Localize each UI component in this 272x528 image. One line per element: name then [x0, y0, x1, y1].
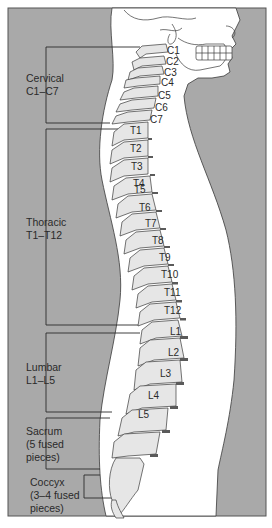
region-cervical-range: C1–C7	[26, 85, 59, 97]
region-lumbar-name: Lumbar	[26, 361, 62, 373]
spine-diagram: C1 C2 C3 C4 C5 C6 C7 T1 T2 T3 T4 T5 T6 T…	[0, 0, 272, 528]
region-thoracic-range: T1–T12	[26, 229, 62, 241]
label-t8: T8	[152, 235, 164, 246]
label-t7: T7	[145, 218, 157, 229]
label-l4: L4	[148, 390, 160, 401]
label-c7: C7	[150, 114, 163, 125]
region-coccyx-desc-1: (3–4 fused	[30, 489, 80, 501]
label-t1: T1	[130, 125, 142, 136]
label-t5: T5	[134, 184, 146, 195]
region-sacrum-desc-1: (5 fused	[26, 438, 64, 450]
label-t11: T11	[164, 287, 181, 298]
label-l1: L1	[170, 326, 182, 337]
label-t3: T3	[131, 161, 143, 172]
region-sacrum-name: Sacrum	[26, 425, 62, 437]
region-coccyx-name: Coccyx	[30, 476, 65, 488]
label-l5: L5	[138, 409, 150, 420]
label-c6: C6	[155, 102, 168, 113]
label-c1: C1	[167, 45, 180, 56]
label-l2: L2	[168, 347, 180, 358]
label-t10: T10	[161, 269, 179, 280]
region-thoracic-name: Thoracic	[26, 216, 66, 228]
region-cervical-name: Cervical	[26, 72, 64, 84]
label-t2: T2	[130, 143, 142, 154]
label-c4: C4	[161, 77, 174, 88]
label-t9: T9	[159, 252, 171, 263]
label-c2: C2	[166, 56, 179, 67]
region-coccyx-desc-2: pieces)	[30, 502, 64, 514]
label-t12: T12	[164, 305, 182, 316]
label-l3: L3	[160, 368, 172, 379]
label-c5: C5	[158, 90, 171, 101]
region-sacrum-desc-2: pieces)	[26, 451, 60, 463]
label-t6: T6	[139, 202, 151, 213]
region-lumbar-range: L1–L5	[26, 374, 55, 386]
